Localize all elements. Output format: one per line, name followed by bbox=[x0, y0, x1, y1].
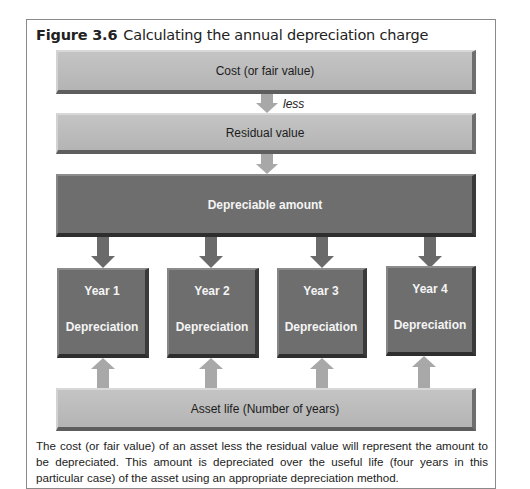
year-4-box: Year 4 Depreciation bbox=[386, 266, 476, 356]
asset-life-box: Asset life (Number of years) bbox=[56, 388, 476, 431]
residual-value-box: Residual value bbox=[56, 113, 476, 154]
down-arrow-icon bbox=[91, 237, 115, 268]
down-arrow-icon bbox=[199, 237, 223, 268]
up-arrow-icon bbox=[412, 356, 436, 388]
up-arrow-icon bbox=[310, 358, 334, 388]
year-label: Year 1 bbox=[84, 284, 119, 298]
depreciation-label: Depreciation bbox=[66, 320, 139, 334]
figure-caption: The cost (or fair value) of an asset les… bbox=[36, 438, 488, 486]
year-2-box: Year 2 Depreciation bbox=[167, 268, 259, 358]
depreciation-label: Depreciation bbox=[176, 320, 249, 334]
year-label: Year 4 bbox=[412, 282, 447, 296]
depreciable-label: Depreciable amount bbox=[208, 198, 323, 212]
year-label: Year 2 bbox=[194, 284, 229, 298]
depreciation-label: Depreciation bbox=[285, 320, 358, 334]
depreciation-label: Depreciation bbox=[394, 318, 467, 332]
cost-box: Cost (or fair value) bbox=[56, 50, 476, 94]
figure-number: Figure 3.6 bbox=[36, 27, 117, 43]
year-label: Year 3 bbox=[303, 284, 338, 298]
up-arrow-icon bbox=[199, 358, 223, 388]
down-arrow-icon bbox=[256, 154, 278, 174]
residual-label: Residual value bbox=[226, 126, 305, 140]
year-1-box: Year 1 Depreciation bbox=[57, 268, 149, 358]
up-arrow-icon bbox=[91, 358, 115, 388]
figure-title-text: Calculating the annual depreciation char… bbox=[123, 27, 428, 43]
down-arrow-icon bbox=[256, 94, 278, 113]
year-3-box: Year 3 Depreciation bbox=[277, 268, 367, 358]
less-label: less bbox=[283, 97, 304, 111]
down-arrow-icon bbox=[418, 237, 442, 268]
depreciable-amount-box: Depreciable amount bbox=[56, 174, 476, 237]
asset-life-label: Asset life (Number of years) bbox=[191, 402, 340, 416]
cost-label: Cost (or fair value) bbox=[216, 64, 315, 78]
down-arrow-icon bbox=[310, 237, 334, 268]
figure-title: Figure 3.6Calculating the annual depreci… bbox=[36, 27, 428, 43]
